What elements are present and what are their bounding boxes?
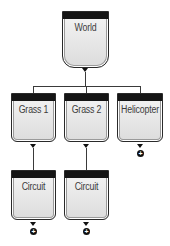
- node-header-bar: [65, 171, 108, 178]
- node-grass-2[interactable]: Grass 2: [64, 93, 109, 142]
- node-helicopter[interactable]: Helicopter: [117, 93, 163, 142]
- connector-world-down: [85, 72, 86, 86]
- plus-circle-icon[interactable]: +: [30, 228, 37, 235]
- triangle-down-icon[interactable]: [137, 144, 143, 148]
- node-circuit-1[interactable]: Circuit: [11, 170, 56, 220]
- node-header-bar: [12, 94, 55, 101]
- connector-grass2-drop: [86, 86, 87, 93]
- node-label: Grass 1: [15, 104, 53, 115]
- triangle-down-icon[interactable]: [30, 144, 36, 148]
- node-world[interactable]: World: [62, 11, 109, 68]
- node-label: Circuit: [68, 181, 106, 192]
- node-label: Circuit: [15, 181, 53, 192]
- node-circuit-2[interactable]: Circuit: [64, 170, 109, 220]
- node-grass-1[interactable]: Grass 1: [11, 93, 56, 142]
- connector-grass2-circuit: [86, 148, 87, 170]
- triangle-down-icon[interactable]: [83, 144, 89, 148]
- node-label: World: [66, 22, 106, 33]
- triangle-down-icon[interactable]: [82, 68, 88, 72]
- node-label: Helicopter: [121, 104, 160, 115]
- connector-grass1-circuit: [33, 148, 34, 170]
- plus-circle-icon[interactable]: +: [137, 150, 144, 157]
- node-header-bar: [12, 171, 55, 178]
- triangle-down-icon[interactable]: [30, 222, 36, 226]
- node-label: Grass 2: [68, 104, 106, 115]
- node-header-bar: [63, 12, 108, 19]
- connector-grass1-drop: [33, 86, 34, 93]
- plus-circle-icon[interactable]: +: [83, 228, 90, 235]
- node-header-bar: [65, 94, 108, 101]
- connector-helicopter-drop: [140, 86, 141, 93]
- connector-horizontal: [33, 86, 141, 87]
- node-header-bar: [118, 94, 162, 101]
- triangle-down-icon[interactable]: [83, 222, 89, 226]
